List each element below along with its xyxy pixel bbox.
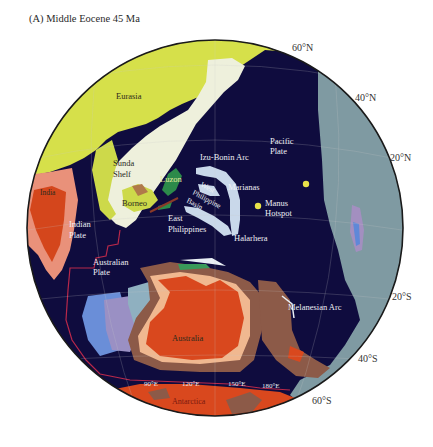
label-halarhera: Halarhera bbox=[234, 233, 268, 243]
label-east-philippines-2: Philippines bbox=[168, 224, 206, 234]
label-australia: Australia bbox=[172, 333, 203, 343]
label-manus-hotspot-2: Hotspot bbox=[265, 208, 293, 218]
latitude-label-20n: 20°N bbox=[390, 152, 411, 163]
label-east-philippines-1: East bbox=[168, 213, 183, 223]
label-sunda-shelf-1: Sunda bbox=[113, 158, 134, 168]
label-eurasia: Eurasia bbox=[116, 91, 142, 101]
label-melanesian-arc: Melanesian Arc bbox=[288, 302, 342, 312]
label-luzon: Luzon bbox=[160, 174, 182, 184]
label-sunda-shelf-2: Shelf bbox=[113, 169, 131, 179]
longitude-label-180e: 180°E bbox=[262, 382, 280, 390]
latitude-label-60s: 60°S bbox=[312, 395, 332, 406]
label-izu-bonin-arc: Izu-Bonin Arc bbox=[200, 152, 249, 162]
label-indian-plate-1: Indian bbox=[69, 219, 91, 229]
globe-content bbox=[0, 0, 433, 447]
label-manus-hotspot-1: Manus bbox=[265, 198, 288, 208]
label-australian-plate-2: Plate bbox=[93, 267, 110, 277]
label-australian-plate-1: Australian bbox=[93, 257, 129, 267]
paleogeographic-globe-map: Eurasia Sunda Shelf India Indian Plate B… bbox=[0, 0, 433, 447]
latitude-label-40s: 40°S bbox=[358, 353, 378, 364]
label-pacific-plate-1: Pacific bbox=[270, 136, 294, 146]
label-indian-plate-2: Plate bbox=[69, 230, 86, 240]
label-pacific-plate-2: Plate bbox=[270, 146, 287, 156]
pacific-hotspot-marker bbox=[303, 181, 309, 187]
label-antarctica: Antarctica bbox=[172, 397, 206, 406]
latitude-label-60n: 60°N bbox=[292, 42, 313, 53]
longitude-label-90e: 90°E bbox=[144, 380, 158, 388]
label-india: India bbox=[40, 188, 56, 197]
latitude-label-20s: 20°S bbox=[392, 291, 412, 302]
label-borneo: Borneo bbox=[122, 198, 147, 208]
latitude-label-40n: 40°N bbox=[355, 92, 376, 103]
longitude-label-120e: 120°E bbox=[182, 380, 200, 388]
manus-hotspot-marker bbox=[255, 203, 261, 209]
label-marianas: Marianas bbox=[228, 182, 260, 192]
longitude-label-150e: 150°E bbox=[228, 380, 246, 388]
